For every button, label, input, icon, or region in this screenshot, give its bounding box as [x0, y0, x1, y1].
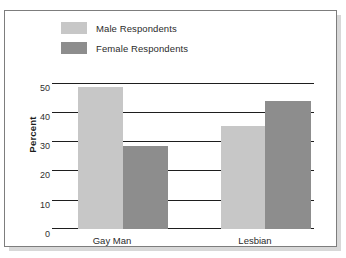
chart-figure: Male Respondents Female Respondents Perc…: [4, 10, 337, 247]
legend-label-male: Male Respondents: [96, 23, 177, 34]
bar-lesbian-female[interactable]: [265, 101, 311, 229]
y-tick-40: 40: [40, 113, 50, 122]
y-tick-0: 0: [45, 230, 50, 239]
gridline-50: 50: [52, 83, 314, 84]
x-category-label-lesbian: Lesbian: [220, 235, 290, 246]
bar-lesbian-male[interactable]: [221, 126, 265, 229]
legend-item-female: Female Respondents: [61, 39, 301, 57]
y-tick-20: 20: [40, 171, 50, 180]
bar-gay-man-male[interactable]: [78, 87, 123, 229]
y-tick-30: 30: [40, 142, 50, 151]
legend-swatch-male-icon: [61, 22, 87, 34]
x-category-label-gay-man: Gay Man: [77, 235, 147, 246]
legend-item-male: Male Respondents: [61, 19, 301, 37]
y-tick-10: 10: [40, 201, 50, 210]
chart-legend: Male Respondents Female Respondents: [61, 19, 301, 59]
plot-area: 50 40 30 20 10 0: [52, 83, 314, 229]
legend-label-female: Female Respondents: [96, 43, 188, 54]
y-tick-50: 50: [40, 84, 50, 93]
y-axis-title: Percent: [27, 100, 38, 170]
bar-gay-man-female[interactable]: [123, 146, 168, 229]
legend-swatch-female-icon: [61, 42, 87, 54]
